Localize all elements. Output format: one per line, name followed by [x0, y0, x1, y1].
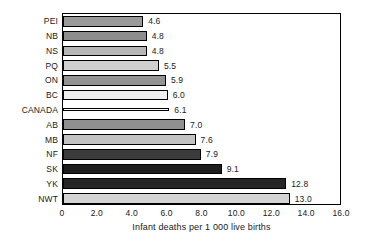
bar-row: SK9.1	[63, 162, 340, 177]
x-axis-title: Infant deaths per 1 000 live births	[62, 223, 341, 232]
category-label-bc: BC	[46, 91, 58, 100]
value-label-bc: 6.0	[173, 91, 185, 100]
x-tick-12: 12.0	[263, 209, 280, 218]
x-tick-4: 4.0	[126, 209, 138, 218]
x-tick-2: 2.0	[91, 209, 103, 218]
x-tick-6: 6.0	[160, 209, 172, 218]
bar-row: YK12.8	[63, 176, 340, 191]
bar-row: BC6.0	[63, 88, 340, 103]
category-label-pei: PEI	[44, 17, 58, 26]
bar-canada	[63, 108, 169, 111]
bar-mb	[63, 134, 196, 145]
bar-on	[63, 75, 166, 86]
value-label-sk: 9.1	[227, 165, 239, 174]
value-label-mb: 7.6	[201, 135, 213, 144]
category-label-nb: NB	[46, 32, 58, 41]
value-label-on: 5.9	[171, 76, 183, 85]
value-label-ab: 7.0	[190, 121, 202, 130]
category-label-mb: MB	[45, 135, 58, 144]
x-tick-10: 10.0	[228, 209, 245, 218]
category-label-yk: YK	[46, 180, 58, 189]
bar-row: NB4.8	[63, 29, 340, 44]
x-tick-14: 14.0	[298, 209, 315, 218]
bar-yk	[63, 178, 286, 189]
bar-ns	[63, 46, 147, 57]
value-label-nwt: 13.0	[295, 194, 312, 203]
category-label-sk: SK	[46, 165, 58, 174]
x-axis-tick-labels: 02.04.06.08.010.012.014.016.0	[62, 205, 341, 223]
category-label-nwt: NWT	[38, 194, 58, 203]
bar-rows: PEI4.6NB4.8NS4.8PQ5.5ON5.9BC6.0CANADA6.1…	[63, 14, 340, 204]
value-label-yk: 12.8	[291, 180, 308, 189]
x-tick-16: 16.0	[332, 209, 349, 218]
bar-row: NF7.9	[63, 147, 340, 162]
value-label-canada: 6.1	[174, 106, 186, 115]
value-label-nf: 7.9	[206, 150, 218, 159]
category-label-ab: AB	[46, 121, 58, 130]
bar-pei	[63, 16, 143, 27]
category-label-canada: CANADA	[22, 106, 58, 115]
value-label-ns: 4.8	[152, 47, 164, 56]
category-label-pq: PQ	[45, 61, 58, 70]
bar-nwt	[63, 193, 290, 204]
category-label-ns: NS	[46, 47, 58, 56]
bar-row: PEI4.6	[63, 14, 340, 29]
value-label-pei: 4.6	[148, 17, 160, 26]
value-label-nb: 4.8	[152, 32, 164, 41]
bar-nf	[63, 149, 201, 160]
bar-row: PQ5.5	[63, 58, 340, 73]
bar-pq	[63, 60, 159, 71]
bar-row: CANADA6.1	[63, 103, 340, 118]
category-label-nf: NF	[46, 150, 58, 159]
plot-area: PEI4.6NB4.8NS4.8PQ5.5ON5.9BC6.0CANADA6.1…	[62, 13, 341, 205]
bar-row: AB7.0	[63, 117, 340, 132]
category-label-on: ON	[45, 76, 58, 85]
bar-sk	[63, 164, 222, 175]
bar-row: NWT13.0	[63, 191, 340, 206]
infant-mortality-bar-chart: PEI4.6NB4.8NS4.8PQ5.5ON5.9BC6.0CANADA6.1…	[0, 0, 373, 244]
x-tick-0: 0	[60, 209, 65, 218]
bar-bc	[63, 90, 168, 101]
bar-row: ON5.9	[63, 73, 340, 88]
bar-ab	[63, 119, 185, 130]
value-label-pq: 5.5	[164, 61, 176, 70]
bar-row: MB7.6	[63, 132, 340, 147]
x-tick-8: 8.0	[195, 209, 207, 218]
bar-nb	[63, 31, 147, 42]
bar-row: NS4.8	[63, 44, 340, 59]
